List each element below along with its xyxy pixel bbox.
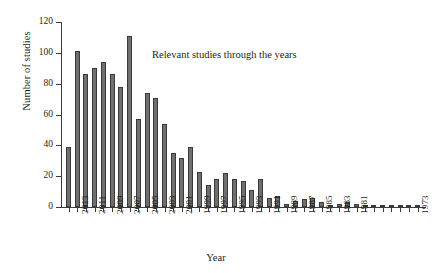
x-tick-mark xyxy=(374,208,375,212)
x-tick-mark xyxy=(112,208,113,212)
x-tick-mark xyxy=(130,208,131,212)
x-tick-mark xyxy=(278,208,279,212)
x-tick-mark xyxy=(339,208,340,212)
x-tick-mark xyxy=(138,208,139,212)
x-tick-mark xyxy=(234,208,235,212)
x-tick-mark xyxy=(147,208,148,212)
x-tick-mark xyxy=(199,208,200,212)
y-tick-label: 100 xyxy=(20,48,53,58)
y-tick-label: 0 xyxy=(20,202,53,212)
bar xyxy=(145,93,150,207)
y-tick-label: 60 xyxy=(20,110,53,120)
x-tick-mark xyxy=(409,208,410,212)
x-tick-mark xyxy=(182,208,183,212)
x-tick-mark xyxy=(208,208,209,212)
bar xyxy=(406,205,411,207)
x-tick-mark xyxy=(313,208,314,212)
x-tick-mark xyxy=(86,208,87,212)
bar xyxy=(75,51,80,207)
bar xyxy=(136,119,141,207)
bar xyxy=(66,147,71,207)
x-tick-mark xyxy=(69,208,70,212)
y-tick-label: 40 xyxy=(20,140,53,150)
x-tick-mark xyxy=(226,208,227,212)
x-tick-mark xyxy=(261,208,262,212)
x-tick-mark xyxy=(77,208,78,212)
x-tick-mark xyxy=(357,208,358,212)
bar xyxy=(110,74,115,207)
x-tick-label: 1973 xyxy=(421,195,430,214)
x-tick-mark xyxy=(165,208,166,212)
bar xyxy=(101,62,106,207)
x-tick-mark xyxy=(295,208,296,212)
x-tick-mark xyxy=(191,208,192,212)
x-tick-mark xyxy=(95,208,96,212)
y-tick-label: 80 xyxy=(20,79,53,89)
bar xyxy=(380,205,385,207)
x-tick-mark xyxy=(156,208,157,212)
x-tick-mark xyxy=(269,208,270,212)
y-tick-mark xyxy=(56,176,61,177)
x-tick-mark xyxy=(252,208,253,212)
bar xyxy=(127,36,132,207)
x-tick-mark xyxy=(304,208,305,212)
bar xyxy=(267,198,272,207)
y-tick-mark xyxy=(56,115,61,116)
x-tick-mark xyxy=(383,208,384,212)
y-tick-mark xyxy=(56,207,61,208)
x-axis-title: Year xyxy=(0,252,432,263)
x-tick-mark xyxy=(418,208,419,212)
bar-chart-figure: Number of studies 020406080100120 201320… xyxy=(0,0,432,273)
bar xyxy=(337,204,342,207)
bar xyxy=(398,205,403,207)
x-tick-mark xyxy=(217,208,218,212)
x-tick-mark xyxy=(400,208,401,212)
y-tick-mark xyxy=(56,145,61,146)
y-tick-label: 120 xyxy=(20,17,53,27)
y-tick-mark xyxy=(56,84,61,85)
x-tick-mark xyxy=(391,208,392,212)
x-tick-mark xyxy=(322,208,323,212)
bar xyxy=(371,205,376,207)
x-tick-mark xyxy=(173,208,174,212)
x-tick-mark xyxy=(365,208,366,212)
bar xyxy=(118,87,123,207)
bar xyxy=(153,98,158,207)
bar xyxy=(83,74,88,207)
x-tick-mark xyxy=(243,208,244,212)
bar xyxy=(302,199,307,207)
y-tick-mark xyxy=(56,53,61,54)
chart-annotation: Relevant studies through the years xyxy=(152,49,297,60)
x-tick-mark xyxy=(121,208,122,212)
bar xyxy=(389,205,394,207)
x-tick-mark xyxy=(103,208,104,212)
bar xyxy=(92,68,97,207)
y-tick-label: 20 xyxy=(20,171,53,181)
x-tick-mark xyxy=(348,208,349,212)
x-tick-mark xyxy=(330,208,331,212)
x-tick-mark xyxy=(287,208,288,212)
y-tick-mark xyxy=(56,22,61,23)
